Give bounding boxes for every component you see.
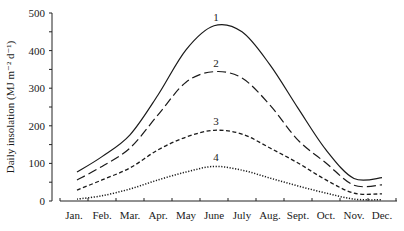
- y-tick-label: 200: [29, 120, 46, 132]
- series-1-line: [77, 25, 382, 181]
- x-tick-label: Jan.: [65, 209, 83, 221]
- y-tick-label: 300: [29, 82, 46, 94]
- x-tick-label: June: [204, 209, 224, 221]
- x-tick-label: Oct.: [317, 209, 336, 221]
- series-3-label: 3: [213, 115, 219, 127]
- x-tick-label: Nov.: [344, 209, 365, 221]
- y-tick-label: 100: [29, 157, 46, 169]
- x-axis: Jan.Feb.Mar.Apr.MayJuneJulyAug.Sept.Oct.…: [60, 198, 397, 221]
- y-tick-label: 500: [29, 7, 46, 19]
- x-tick-label: Mar.: [120, 209, 141, 221]
- series-4-label: 4: [213, 151, 219, 163]
- y-tick-label: 400: [29, 45, 46, 57]
- y-tick-label: 0: [40, 195, 46, 207]
- x-tick-label: Aug.: [259, 209, 281, 221]
- x-tick-label: Feb.: [92, 209, 112, 221]
- x-tick-label: Apr.: [148, 209, 168, 221]
- series-group: 1234: [77, 11, 382, 200]
- series-1-label: 1: [213, 11, 219, 23]
- insolation-line-chart: 0100200300400500 Jan.Feb.Mar.Apr.MayJune…: [0, 0, 404, 231]
- y-axis: 0100200300400500: [29, 7, 53, 207]
- series-2-line: [77, 72, 382, 187]
- x-tick-label: July: [233, 209, 252, 221]
- x-tick-label: Sept.: [287, 209, 310, 221]
- x-tick-label: Dec.: [372, 209, 393, 221]
- y-axis-title: Daily insolation (MJ m⁻² d⁻¹): [4, 40, 17, 173]
- series-2-label: 2: [213, 57, 219, 69]
- x-tick-label: May: [176, 209, 197, 221]
